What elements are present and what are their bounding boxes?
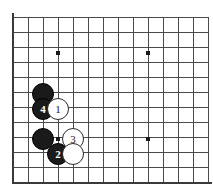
white-stone-plain[interactable] — [62, 143, 84, 165]
stone-move-number: 4 — [40, 104, 46, 115]
go-board-diagram: 4132 — [0, 0, 213, 195]
stone-move-number: 1 — [55, 104, 61, 115]
stone-layer: 4132 — [0, 0, 213, 195]
white-stone-move-1[interactable]: 1 — [47, 98, 69, 120]
stone-move-number: 2 — [55, 149, 61, 160]
